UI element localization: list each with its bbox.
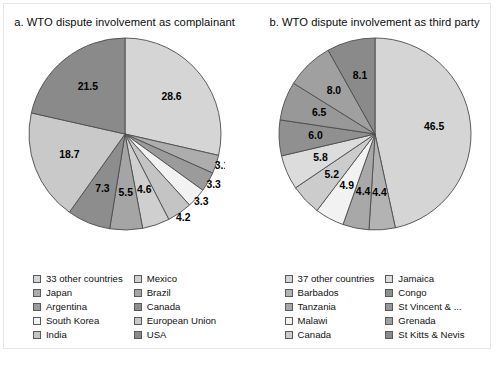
pie-slice-value-label: 28.6	[161, 91, 181, 102]
legend-swatch-icon	[285, 331, 293, 339]
legend-item[interactable]: Japan	[33, 287, 123, 298]
legend-item-label: Mexico	[147, 273, 177, 284]
legend-swatch-icon	[33, 303, 41, 311]
panel-b-title: b. WTO dispute involvement as third part…	[250, 16, 499, 28]
legend-item-label: South Korea	[46, 315, 99, 326]
pie-slice-value-label: 4.4	[372, 187, 387, 198]
legend-item[interactable]: St Vincent & ...	[385, 301, 464, 312]
legend-swatch-icon	[285, 275, 293, 283]
legend-item-label: Canada	[298, 329, 332, 340]
pie-slice-value-label: 21.5	[77, 81, 97, 92]
legend-item[interactable]: India	[33, 329, 123, 340]
legend-item[interactable]: 33 other countries	[33, 273, 123, 284]
legend-swatch-icon	[385, 317, 393, 325]
legend-swatch-icon	[285, 289, 293, 297]
pie-slice-value-label: 3.1	[214, 160, 224, 171]
legend-item[interactable]: Tanzania	[285, 301, 375, 312]
pie-a-svg: 28.63.13.33.34.24.65.57.318.721.5	[25, 34, 225, 234]
legend-item[interactable]: Brazil	[134, 287, 216, 298]
legend-item[interactable]: USA	[134, 329, 216, 340]
legend-item-label: 37 other countries	[298, 273, 375, 284]
pie-slice-value-label: 4.6	[137, 184, 152, 195]
pie-slice-value-label: 4.2	[176, 212, 191, 223]
legend-item-label: Malawi	[298, 315, 328, 326]
legend-item-label: St Vincent & ...	[398, 301, 461, 312]
legend-item-label: Japan	[46, 287, 72, 298]
panel-a-title: a. WTO dispute involvement as complainan…	[0, 16, 249, 28]
legend-swatch-icon	[33, 317, 41, 325]
legend-item-label: Jamaica	[398, 273, 434, 284]
legend-item-label: Grenada	[398, 315, 435, 326]
legend-b: 37 other countriesJamaicaBarbadosCongoTa…	[250, 273, 499, 340]
pie-slice-value-label: 4.9	[339, 180, 354, 191]
legend-item[interactable]: Grenada	[385, 315, 464, 326]
legend-item[interactable]: South Korea	[33, 315, 123, 326]
legend-swatch-icon	[134, 275, 142, 283]
legend-a: 33 other countriesMexicoJapanBrazilArgen…	[0, 273, 249, 340]
panel-a: a. WTO dispute involvement as complainan…	[0, 0, 249, 350]
legend-item-label: Tanzania	[298, 301, 336, 312]
legend-item-label: Congo	[398, 287, 426, 298]
legend-swatch-icon	[134, 303, 142, 311]
legend-swatch-icon	[33, 275, 41, 283]
legend-swatch-icon	[134, 331, 142, 339]
pie-b-svg: 46.54.44.44.95.25.86.06.58.08.1	[275, 34, 475, 234]
pie-slice-value-label: 3.3	[194, 196, 209, 207]
pie-slice-value-label: 8.1	[352, 70, 367, 81]
legend-item-label: Canada	[147, 301, 181, 312]
legend-item[interactable]: Malawi	[285, 315, 375, 326]
pie-slice-value-label: 18.7	[59, 149, 79, 160]
legend-swatch-icon	[285, 303, 293, 311]
legend-item[interactable]: Mexico	[134, 273, 216, 284]
legend-swatch-icon	[134, 289, 142, 297]
legend-item[interactable]: St Kitts & Nevis	[385, 329, 464, 340]
legend-item-label: St Kitts & Nevis	[398, 329, 464, 340]
legend-swatch-icon	[385, 289, 393, 297]
panel-b: b. WTO dispute involvement as third part…	[250, 0, 499, 350]
legend-item[interactable]: Congo	[385, 287, 464, 298]
legend-item[interactable]: 37 other countries	[285, 273, 375, 284]
pie-slice-value-label: 6.5	[311, 107, 326, 118]
legend-swatch-icon	[285, 317, 293, 325]
pie-chart-b: 46.54.44.44.95.25.86.06.58.08.1	[275, 34, 475, 234]
legend-item-label: USA	[147, 329, 167, 340]
pie-slice-value-label: 7.3	[95, 183, 110, 194]
legend-swatch-icon	[134, 317, 142, 325]
figure-two-pie-charts: a. WTO dispute involvement as complainan…	[0, 0, 499, 366]
legend-swatch-icon	[385, 275, 393, 283]
legend-item[interactable]: European Union	[134, 315, 216, 326]
legend-item-label: India	[46, 329, 67, 340]
legend-swatch-icon	[33, 289, 41, 297]
legend-item[interactable]: Jamaica	[385, 273, 464, 284]
legend-swatch-icon	[385, 303, 393, 311]
legend-item[interactable]: Canada	[285, 329, 375, 340]
legend-swatch-icon	[385, 331, 393, 339]
pie-slice-value-label: 5.5	[118, 187, 133, 198]
pie-slice-value-label: 8.0	[326, 85, 341, 96]
legend-item-label: Argentina	[46, 301, 87, 312]
legend-item-label: 33 other countries	[46, 273, 123, 284]
legend-item[interactable]: Barbados	[285, 287, 375, 298]
pie-slice-value-label: 46.5	[424, 121, 444, 132]
pie-slice-value-label: 5.2	[324, 169, 339, 180]
pie-chart-a: 28.63.13.33.34.24.65.57.318.721.5	[25, 34, 225, 234]
pie-slice-value-label: 3.3	[206, 179, 221, 190]
legend-item-label: European Union	[147, 315, 216, 326]
pie-slice-value-label: 6.0	[308, 130, 323, 141]
legend-item[interactable]: Argentina	[33, 301, 123, 312]
pie-slice-value-label: 4.4	[355, 186, 370, 197]
legend-item-label: Brazil	[147, 287, 171, 298]
legend-item-label: Barbados	[298, 287, 339, 298]
legend-item[interactable]: Canada	[134, 301, 216, 312]
legend-swatch-icon	[33, 331, 41, 339]
pie-slice-value-label: 5.8	[313, 152, 328, 163]
